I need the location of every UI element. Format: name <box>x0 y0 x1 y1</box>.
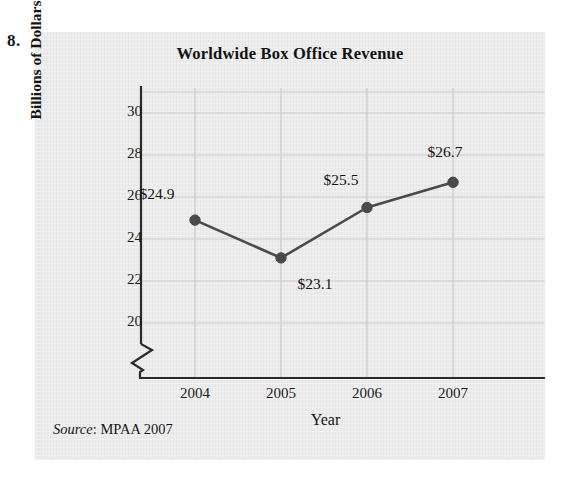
source-value: : MPAA 2007 <box>93 421 173 437</box>
data-point-marker <box>448 177 458 187</box>
x-axis-tick-label: 2005 <box>246 385 316 402</box>
figure-root: 8. Worldwide Box Office Revenue Billions… <box>0 0 585 489</box>
data-point-label: $26.7 <box>428 143 463 161</box>
data-point-label: $24.9 <box>140 185 175 203</box>
y-axis-tick-label: 22 <box>108 271 142 288</box>
data-line-series <box>195 182 453 258</box>
y-axis-title: Billions of Dollars <box>27 0 45 150</box>
x-axis-tick-label: 2007 <box>418 385 488 402</box>
chart-figure-panel: Worldwide Box Office Revenue Billions of… <box>35 32 545 460</box>
chart-canvas <box>106 82 545 420</box>
data-point-label: $25.5 <box>324 171 359 189</box>
chart-title: Worldwide Box Office Revenue <box>35 44 545 64</box>
y-axis-tick-labels: 202224262830 <box>106 82 142 420</box>
y-axis-tick-label: 28 <box>108 145 142 162</box>
source-note: Source: MPAA 2007 <box>53 421 173 438</box>
y-axis-tick-label: 20 <box>108 313 142 330</box>
source-label: Source <box>53 421 93 437</box>
exercise-number: 8. <box>7 31 21 51</box>
x-axis-tick-label: 2006 <box>332 385 402 402</box>
plot-area: 202224262830 2004200520062007 $24.9$23.1… <box>106 82 545 420</box>
data-point-marker <box>362 202 372 212</box>
x-axis-tick-label: 2004 <box>160 385 230 402</box>
y-axis-tick-label: 24 <box>108 229 142 246</box>
y-axis-tick-label: 30 <box>108 103 142 120</box>
data-point-label: $23.1 <box>298 275 333 293</box>
data-point-marker <box>190 215 200 225</box>
y-axis-tick-label: 26 <box>108 187 142 204</box>
data-point-marker <box>276 253 286 263</box>
